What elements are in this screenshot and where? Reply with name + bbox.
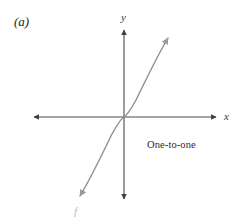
x-axis-label: x bbox=[224, 110, 229, 122]
graph-canvas bbox=[0, 0, 241, 224]
panel-label: (a) bbox=[14, 14, 29, 30]
figure-panel-a: (a) y x f One-to-one bbox=[0, 0, 241, 224]
one-to-one-caption: One-to-one bbox=[147, 139, 196, 150]
curve-label-f: f bbox=[74, 205, 77, 217]
y-axis-label: y bbox=[121, 11, 126, 23]
